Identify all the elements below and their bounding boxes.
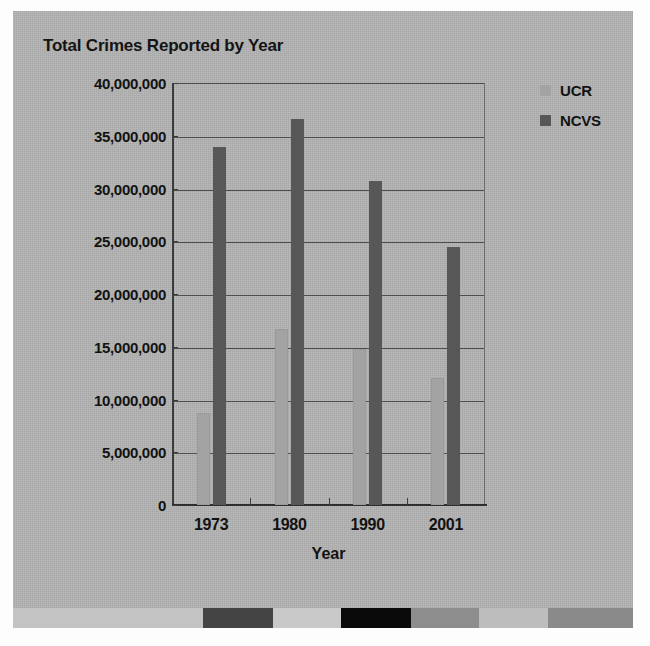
bar-ncvs-1990 xyxy=(369,181,382,505)
y-axis-tick-label: 40,000,000 xyxy=(16,75,166,92)
x-axis-tick-mark xyxy=(329,498,330,505)
calibration-segment xyxy=(13,608,203,628)
legend-item-ncvs: NCVS xyxy=(540,112,601,129)
y-axis-tick-label: 5,000,000 xyxy=(16,444,166,461)
chart-legend: UCR NCVS xyxy=(540,82,601,142)
bar-ucr-1990 xyxy=(353,349,366,505)
y-axis-tick-label: 30,000,000 xyxy=(16,180,166,197)
y-axis-tick-label: 35,000,000 xyxy=(16,127,166,144)
x-axis-tick-mark xyxy=(407,498,408,505)
x-axis-tick-label-1973: 1973 xyxy=(172,516,250,534)
calibration-segment xyxy=(411,608,479,628)
calibration-segment xyxy=(203,608,273,628)
calibration-segment xyxy=(548,608,633,628)
gridline xyxy=(174,137,485,138)
legend-item-ucr: UCR xyxy=(540,82,601,99)
y-axis-tick-mark xyxy=(172,189,178,190)
y-axis-tick-label: 20,000,000 xyxy=(16,286,166,303)
legend-label-ucr: UCR xyxy=(560,82,592,99)
y-axis-tick-mark xyxy=(172,294,178,295)
calibration-segment xyxy=(273,608,341,628)
calibration-segment xyxy=(341,608,411,628)
y-axis-tick-mark xyxy=(172,241,178,242)
bar-ucr-2001 xyxy=(431,378,444,505)
y-axis-tick-label: 15,000,000 xyxy=(16,338,166,355)
y-axis-tick-mark xyxy=(172,136,178,137)
x-axis-tick-label-1980: 1980 xyxy=(250,516,328,534)
y-axis-tick-mark xyxy=(172,452,178,453)
x-axis-tick-label-2001: 2001 xyxy=(407,516,485,534)
x-axis-tick-label-1990: 1990 xyxy=(329,516,407,534)
x-axis-title: Year xyxy=(172,545,485,563)
y-axis-tick-mark xyxy=(172,347,178,348)
screenshot-root: Total Crimes Reported by Year 40,000,000… xyxy=(0,0,650,646)
scanner-calibration-strip xyxy=(13,608,633,628)
y-axis-tick-mark xyxy=(172,505,178,506)
legend-label-ncvs: NCVS xyxy=(560,112,601,129)
x-axis-tick-mark xyxy=(250,498,251,505)
calibration-segment xyxy=(479,608,548,628)
y-axis-tick-mark xyxy=(172,83,178,84)
y-axis-tick-label: 0 xyxy=(16,497,166,514)
bar-ucr-1980 xyxy=(275,329,288,505)
y-axis-tick-labels: 40,000,00035,000,00030,000,00025,000,000… xyxy=(12,0,166,646)
legend-swatch-ucr xyxy=(540,85,551,96)
bar-ucr-1973 xyxy=(197,413,210,505)
bar-ncvs-2001 xyxy=(447,247,460,505)
y-axis-tick-mark xyxy=(172,400,178,401)
legend-swatch-ncvs xyxy=(540,115,551,126)
plot-right-edge xyxy=(484,83,485,505)
bar-ncvs-1973 xyxy=(213,147,226,505)
bar-ncvs-1980 xyxy=(291,119,304,505)
y-axis-tick-label: 10,000,000 xyxy=(16,391,166,408)
y-axis-tick-label: 25,000,000 xyxy=(16,233,166,250)
